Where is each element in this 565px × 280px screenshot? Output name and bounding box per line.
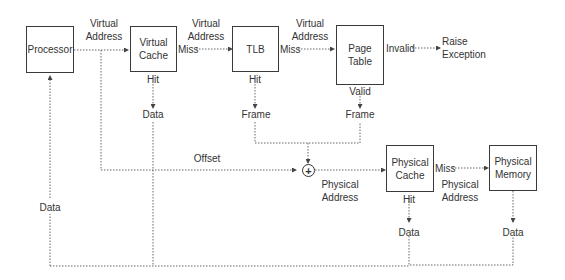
processor-box: Processor (26, 26, 74, 73)
page-table-box: PageTable (336, 25, 384, 85)
data-label-pm: Data (499, 226, 527, 239)
hit-label-vc: Hit (143, 73, 163, 86)
data-label-processor: Data (36, 201, 64, 214)
physical-cache-line1: Physical (391, 156, 428, 169)
physical-cache-line2: Cache (391, 169, 428, 182)
physical-memory-line1: Physical (494, 155, 531, 168)
page-table-line2: Table (348, 55, 372, 68)
miss-label-vc: Miss (178, 43, 199, 56)
valid-label: Valid (348, 85, 372, 98)
hit-label-pc: Hit (399, 193, 419, 206)
physical-address-label-1: PhysicalAddress (318, 178, 362, 204)
tlb-label: TLB (246, 43, 264, 56)
invalid-label: Invalid (386, 42, 415, 55)
adder-icon: + (302, 164, 315, 177)
raise-exception-label: RaiseException (442, 35, 486, 61)
miss-label-pc: Miss (435, 162, 456, 175)
physical-cache-box: PhysicalCache (386, 145, 434, 192)
tlb-box: TLB (232, 26, 279, 72)
processor-label: Processor (27, 43, 72, 56)
physical-memory-line2: Memory (494, 168, 531, 181)
miss-label-tlb: Miss (280, 43, 301, 56)
virtual-address-label-1: VirtualAddress (84, 17, 124, 43)
frame-label-pt: Frame (343, 108, 377, 121)
offset-label: Offset (192, 152, 222, 165)
page-table-line1: Page (348, 42, 372, 55)
physical-address-label-2: PhysicalAddress (438, 178, 482, 204)
physical-memory-box: PhysicalMemory (489, 145, 537, 191)
data-label-pc: Data (395, 226, 423, 239)
virtual-address-label-3: VirtualAddress (290, 17, 330, 43)
hit-label-tlb: Hit (245, 73, 265, 86)
frame-label-tlb: Frame (239, 108, 273, 121)
virtual-cache-line2: Cache (139, 49, 168, 62)
virtual-cache-line1: Virtual (139, 36, 168, 49)
virtual-cache-box: VirtualCache (130, 26, 177, 72)
data-label-vc: Data (139, 108, 167, 121)
virtual-address-label-2: VirtualAddress (186, 17, 226, 43)
